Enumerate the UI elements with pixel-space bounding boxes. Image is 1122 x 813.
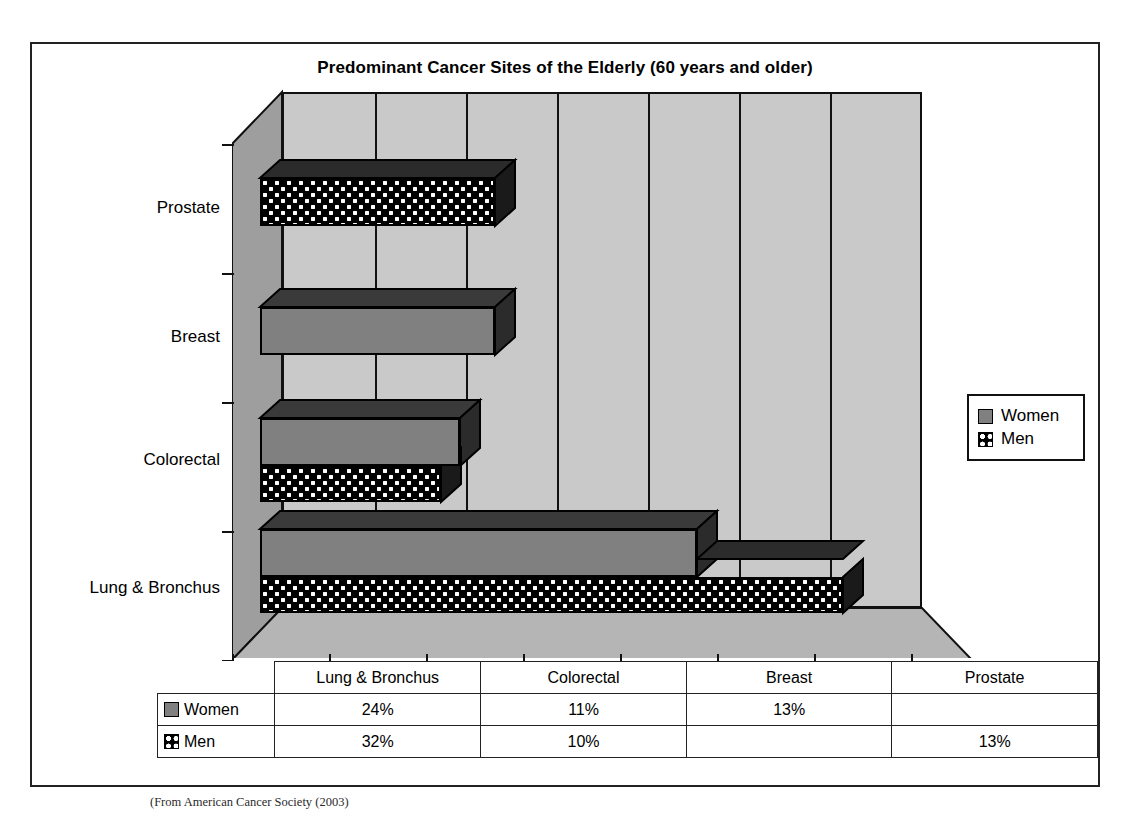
table-swatch-women-icon bbox=[164, 702, 179, 717]
category-label-prostate: Prostate bbox=[157, 198, 220, 218]
cell-men-colorectal: 10% bbox=[481, 726, 687, 758]
bar-breast-women bbox=[260, 307, 495, 355]
legend-swatch-men-icon bbox=[978, 432, 993, 447]
figure-caption: (From American Cancer Society (2003) bbox=[150, 795, 1070, 811]
legend-swatch-women-icon bbox=[978, 409, 993, 424]
gridline-25 bbox=[739, 94, 741, 606]
table-row-header-women: Women bbox=[158, 694, 275, 726]
table-swatch-men-icon bbox=[164, 734, 179, 749]
y-tick-3 bbox=[222, 531, 234, 533]
cell-men-prostate: 13% bbox=[892, 726, 1098, 758]
table-row: Women 24% 11% 13% bbox=[158, 694, 1098, 726]
cell-women-lung: 24% bbox=[275, 694, 481, 726]
table-row-header-men: Men bbox=[158, 726, 275, 758]
category-label-colorectal: Colorectal bbox=[143, 450, 220, 470]
table-row-label-men: Men bbox=[184, 733, 215, 751]
figure-frame: Predominant Cancer Sites of the Elderly … bbox=[30, 42, 1100, 787]
table-row-label-women: Women bbox=[184, 701, 239, 719]
legend-label-women: Women bbox=[1001, 406, 1059, 426]
table-col-header-breast: Breast bbox=[687, 662, 892, 694]
chart-title: Predominant Cancer Sites of the Elderly … bbox=[32, 58, 1098, 78]
table-col-header-lung: Lung & Bronchus bbox=[275, 662, 481, 694]
bar-colorectal-men bbox=[260, 466, 441, 502]
gridline-30 bbox=[830, 94, 832, 606]
chart-plot-area: Prostate Breast Colorectal Lung & Bronch… bbox=[232, 88, 972, 658]
chart-legend: Women Men bbox=[967, 394, 1085, 461]
bar-lung-women bbox=[260, 529, 697, 577]
table-row: Men 32% 10% 13% bbox=[158, 726, 1098, 758]
legend-item-women: Women bbox=[978, 406, 1074, 426]
legend-item-men: Men bbox=[978, 429, 1074, 449]
table-corner-cell bbox=[158, 662, 275, 694]
y-tick-2 bbox=[222, 402, 234, 404]
bar-prostate-men bbox=[260, 178, 495, 226]
table-header-row: Lung & Bronchus Colorectal Breast Prosta… bbox=[158, 662, 1098, 694]
table-col-header-colorectal: Colorectal bbox=[481, 662, 687, 694]
category-label-breast: Breast bbox=[171, 327, 220, 347]
y-tick-1 bbox=[222, 273, 234, 275]
cell-women-breast: 13% bbox=[687, 694, 892, 726]
cell-men-breast bbox=[687, 726, 892, 758]
data-table: Lung & Bronchus Colorectal Breast Prosta… bbox=[157, 661, 1098, 758]
category-label-lung: Lung & Bronchus bbox=[90, 578, 220, 598]
cell-women-prostate bbox=[892, 694, 1098, 726]
y-tick-top bbox=[222, 144, 234, 146]
bar-colorectal-women bbox=[260, 418, 460, 466]
cell-women-colorectal: 11% bbox=[481, 694, 687, 726]
bar-lung-men bbox=[260, 577, 843, 613]
table-col-header-prostate: Prostate bbox=[892, 662, 1098, 694]
cell-men-lung: 32% bbox=[275, 726, 481, 758]
legend-label-men: Men bbox=[1001, 429, 1034, 449]
